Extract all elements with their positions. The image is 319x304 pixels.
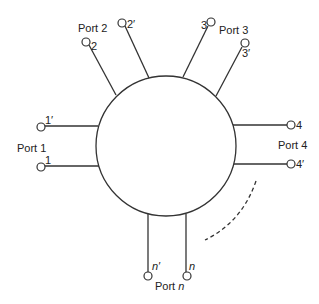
port-2-lead xyxy=(89,45,116,95)
port-4: 4 4′ Port 4 xyxy=(233,119,307,170)
continuation-dashed-arc xyxy=(205,181,256,240)
port-2: 2 2′ Port 2 xyxy=(78,18,149,95)
terminal-2-prime-label: 2′ xyxy=(127,18,135,30)
terminal-1 xyxy=(37,163,45,171)
terminal-1-label: 1 xyxy=(45,154,51,166)
terminal-2-label: 2 xyxy=(91,40,97,52)
terminal-3-label: 3 xyxy=(201,19,207,31)
n-port-network-diagram: 1′ 1 Port 1 2 2′ Port 2 3 3′ Port 3 4 4′… xyxy=(0,0,319,304)
terminal-3-prime xyxy=(241,39,249,47)
port-2-prime-lead xyxy=(125,26,149,78)
terminal-n-prime xyxy=(144,272,152,280)
terminal-2 xyxy=(82,38,90,46)
terminal-4 xyxy=(287,121,295,129)
port-n-label: Port n xyxy=(155,280,184,292)
terminal-4-prime xyxy=(287,160,295,168)
terminal-n xyxy=(183,272,191,280)
port-3-label: Port 3 xyxy=(219,24,248,36)
port-3: 3 3′ Port 3 xyxy=(183,18,250,96)
terminal-1-prime xyxy=(37,123,45,131)
port-1-label: Port 1 xyxy=(17,142,46,154)
terminal-3 xyxy=(207,18,215,26)
terminal-1-prime-label: 1′ xyxy=(45,114,53,126)
port-3-prime-lead xyxy=(216,47,242,96)
terminal-4-prime-label: 4′ xyxy=(296,158,304,170)
port-3-lead xyxy=(183,26,208,77)
terminal-2-prime xyxy=(118,19,126,27)
network-junction-circle xyxy=(96,76,236,216)
terminal-n-prime-label: n′ xyxy=(152,260,161,272)
terminal-3-prime-label: 3′ xyxy=(242,47,250,59)
terminal-n-label: n xyxy=(189,260,195,272)
port-2-label: Port 2 xyxy=(78,22,107,34)
terminal-4-label: 4 xyxy=(296,119,302,131)
port-1: 1′ 1 Port 1 xyxy=(17,114,99,171)
port-4-label: Port 4 xyxy=(278,139,307,151)
port-n: n′ n Port n xyxy=(144,214,195,292)
